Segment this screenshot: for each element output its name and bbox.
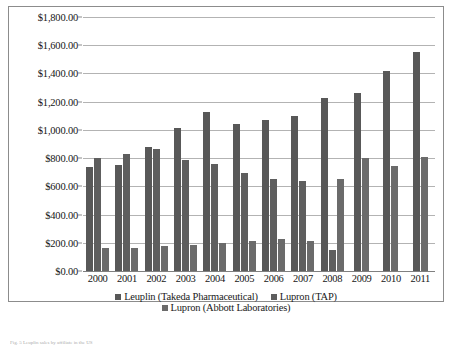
bar — [102, 248, 109, 271]
bar — [391, 166, 398, 271]
x-axis-line — [83, 271, 435, 272]
figure-caption: Fig. 5 Leuplin sales by affiliate in the… — [10, 340, 310, 345]
x-axis-tick-label: 2003 — [176, 273, 196, 284]
bar — [413, 52, 420, 271]
bar — [115, 165, 122, 271]
bar — [174, 128, 181, 271]
plot-area: $0.00$200.00$400.00$600.00$800.00$1,000.… — [83, 17, 435, 271]
bar — [337, 179, 344, 271]
bar-group — [376, 17, 405, 271]
bar — [123, 154, 130, 271]
bar — [131, 248, 138, 271]
y-axis-tick-mark — [78, 158, 82, 159]
y-axis-tick-label: $200.00 — [45, 237, 78, 248]
y-axis-tick-mark — [78, 186, 82, 187]
bar — [354, 93, 361, 272]
legend-item[interactable]: Leuplin (Takeda Pharmaceutical) — [115, 291, 258, 302]
bar — [329, 250, 336, 271]
bar-group — [83, 17, 112, 271]
bar — [182, 160, 189, 271]
bar-group — [406, 17, 435, 271]
legend-item[interactable]: Lupron (Abbott Laboratories) — [162, 302, 291, 313]
y-axis-tick-label: $1,000.00 — [38, 124, 78, 135]
legend-row-primary: Leuplin (Takeda Pharmaceutical)Lupron (T… — [9, 291, 443, 302]
bar — [211, 164, 218, 271]
bar-group — [142, 17, 171, 271]
legend-swatch-icon — [162, 305, 168, 311]
y-axis-tick-label: $1,600.00 — [38, 40, 78, 51]
y-axis-tick-label: $1,200.00 — [38, 96, 78, 107]
x-axis-tick-label: 2007 — [293, 273, 313, 284]
y-axis-tick-label: $0.00 — [55, 266, 78, 277]
x-axis-tick-label: 2010 — [381, 273, 401, 284]
bar — [278, 239, 285, 271]
bar — [145, 147, 152, 271]
bar — [219, 243, 226, 271]
legend-item[interactable]: Lupron (TAP) — [271, 291, 337, 302]
legend-row-secondary: Lupron (Abbott Laboratories) — [9, 302, 443, 313]
x-axis-tick-label: 2011 — [411, 273, 430, 284]
y-axis-tick-mark — [78, 214, 82, 215]
bar-series-container — [83, 17, 435, 271]
bar-group — [230, 17, 259, 271]
legend-label: Lupron (Abbott Laboratories) — [171, 302, 291, 313]
bar — [383, 71, 390, 271]
legend-swatch-icon — [271, 294, 277, 300]
x-axis-tick-label: 2004 — [205, 273, 225, 284]
bar-group — [200, 17, 229, 271]
legend-label: Lupron (TAP) — [280, 291, 337, 302]
legend-label: Leuplin (Takeda Pharmaceutical) — [124, 291, 258, 302]
y-axis-tick-label: $1,400.00 — [38, 68, 78, 79]
x-axis-tick-label: 2005 — [234, 273, 254, 284]
bar — [153, 149, 160, 271]
y-axis-tick-mark — [78, 17, 82, 18]
bar — [362, 158, 369, 271]
bar — [94, 158, 101, 271]
x-axis-tick-label: 2006 — [264, 273, 284, 284]
y-axis-tick-mark — [78, 73, 82, 74]
x-axis-tick-label: 2000 — [88, 273, 108, 284]
bar-group — [259, 17, 288, 271]
bar — [86, 167, 93, 271]
y-axis-tick-label: $800.00 — [45, 153, 78, 164]
bar — [291, 116, 298, 271]
bar — [190, 245, 197, 271]
bar — [421, 157, 428, 271]
bar — [241, 173, 248, 271]
x-axis-tick-label: 2008 — [322, 273, 342, 284]
y-axis-tick-mark — [78, 242, 82, 243]
bar — [307, 241, 314, 271]
bar-group — [112, 17, 141, 271]
y-axis-tick-label: $1,800.00 — [38, 12, 78, 23]
chart-figure: $0.00$200.00$400.00$600.00$800.00$1,000.… — [8, 6, 444, 302]
bar — [299, 181, 306, 271]
bar-group — [318, 17, 347, 271]
bar — [262, 120, 269, 271]
bar — [270, 179, 277, 271]
x-axis-tick-label: 2009 — [352, 273, 372, 284]
bar — [249, 241, 256, 271]
x-axis-ticks: 2000200120022003200420052006200720082009… — [83, 273, 435, 289]
bar-group — [347, 17, 376, 271]
y-axis-tick-label: $600.00 — [45, 181, 78, 192]
legend-swatch-icon — [115, 294, 121, 300]
bar-group — [288, 17, 317, 271]
x-axis-tick-label: 2002 — [146, 273, 166, 284]
bar — [321, 98, 328, 271]
chart-legend: Leuplin (Takeda Pharmaceutical)Lupron (T… — [9, 291, 443, 313]
bar-group — [171, 17, 200, 271]
y-axis-tick-mark — [78, 45, 82, 46]
x-axis-tick-label: 2001 — [117, 273, 137, 284]
bar — [161, 246, 168, 271]
bar — [233, 124, 240, 271]
y-axis-tick-mark — [78, 101, 82, 102]
y-axis-tick-mark — [78, 129, 82, 130]
bar — [203, 112, 210, 271]
y-axis-tick-mark — [78, 271, 82, 272]
y-axis-tick-label: $400.00 — [45, 209, 78, 220]
